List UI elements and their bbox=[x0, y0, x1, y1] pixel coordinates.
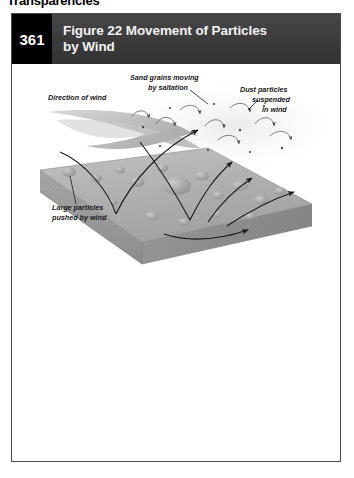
figure-title-line-1: Figure 22 Movement of Particles bbox=[63, 23, 267, 38]
wind-particle-diagram: Direction of wind Sand grains moving by … bbox=[12, 64, 339, 460]
page-number: 361 bbox=[19, 31, 44, 48]
illustration-area: Direction of wind Sand grains moving by … bbox=[12, 64, 340, 460]
label-saltation-line-1: Sand grains moving bbox=[130, 73, 199, 82]
figure-title-container: Figure 22 Movement of Particles by Wind bbox=[52, 14, 340, 64]
page-number-box: 361 bbox=[12, 14, 52, 64]
figure-header: 361 Figure 22 Movement of Particles by W… bbox=[12, 14, 340, 64]
label-creep-line-1: Large particles bbox=[52, 203, 103, 212]
label-suspension-line-1: Dust particles bbox=[240, 85, 288, 94]
label-suspension-line-2: suspended bbox=[252, 95, 291, 104]
figure-title: Figure 22 Movement of Particles by Wind bbox=[63, 23, 267, 55]
label-wind-direction: Direction of wind bbox=[48, 93, 107, 102]
label-saltation-line-2: by saltation bbox=[148, 83, 189, 92]
figure-card: 361 Figure 22 Movement of Particles by W… bbox=[11, 13, 341, 462]
label-creep-line-2: pushed by wind bbox=[51, 213, 107, 222]
figure-title-line-2: by Wind bbox=[63, 39, 115, 54]
page-heading: Transparencies bbox=[7, 0, 100, 8]
label-suspension-line-3: in wind bbox=[262, 105, 287, 114]
